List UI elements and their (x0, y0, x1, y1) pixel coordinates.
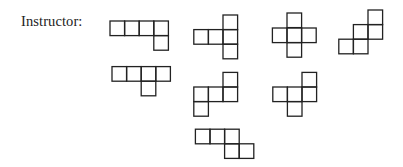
square-cell (368, 10, 383, 25)
square-cell (223, 30, 238, 45)
square-cell (368, 25, 383, 40)
shape-8 (195, 129, 253, 158)
square-cell (141, 81, 156, 96)
square-cell (287, 13, 302, 28)
square-cell (156, 67, 171, 82)
square-cell (223, 72, 238, 87)
square-cell (127, 67, 142, 82)
square-cell (208, 30, 223, 45)
pentomino-diagram (0, 0, 403, 167)
square-cell (302, 87, 317, 102)
square-cell (273, 87, 288, 102)
square-cell (210, 129, 225, 144)
square-cell (287, 102, 302, 117)
square-cell (225, 129, 240, 144)
square-cell (223, 44, 238, 59)
square-cell (287, 43, 302, 58)
square-cell (195, 129, 210, 144)
square-cell (194, 30, 209, 45)
square-cell (287, 87, 302, 102)
square-cell (194, 87, 209, 102)
square-cell (139, 21, 154, 36)
square-cell (239, 144, 254, 159)
square-cell (302, 72, 317, 87)
square-cell (154, 36, 169, 51)
shape-4 (339, 10, 383, 54)
shape-1 (110, 21, 168, 50)
square-cell (110, 21, 125, 36)
square-cell (194, 102, 209, 117)
shape-6 (194, 72, 238, 116)
square-cell (208, 87, 223, 102)
shape-3 (272, 13, 316, 57)
shape-2 (194, 15, 238, 59)
square-cell (339, 39, 354, 54)
square-cell (353, 25, 368, 40)
shape-5 (112, 67, 170, 96)
square-cell (272, 28, 287, 43)
square-cell (154, 21, 169, 36)
square-cell (141, 67, 156, 82)
square-cell (353, 39, 368, 54)
square-cell (223, 15, 238, 30)
square-cell (112, 67, 127, 82)
square-cell (225, 144, 240, 159)
square-cell (223, 87, 238, 102)
square-cell (125, 21, 140, 36)
square-cell (302, 28, 317, 43)
square-cell (287, 28, 302, 43)
shape-7 (273, 72, 317, 116)
